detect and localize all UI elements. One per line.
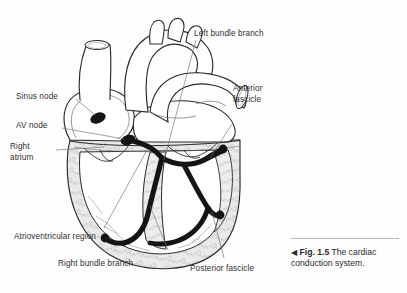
caption-divider <box>291 238 399 239</box>
label-left-bundle-branch: Left bundle branch <box>194 29 264 39</box>
label-av-node: AV node <box>16 121 48 131</box>
svc-lumen-inner <box>88 43 106 49</box>
label-right-atrium-line2: atrium <box>10 153 33 163</box>
posterior-fascicle-terminal <box>216 211 225 220</box>
label-atrioventricular-region: Atrioventricular region <box>14 232 96 242</box>
label-right-atrium-line1: Right <box>10 142 30 152</box>
label-posterior-fascicle: Posterior fascicle <box>190 264 254 274</box>
figure-root: Sinus node AV node Right atrium Atrioven… <box>0 0 407 293</box>
caption-figure-number: Fig. 1.5 <box>300 247 330 257</box>
label-anterior-fascicle-line2: fascicle <box>233 95 261 105</box>
left-atrium <box>133 101 235 142</box>
label-right-bundle-branch: Right bundle branch <box>58 259 133 269</box>
caption-text: ◀ Fig. 1.5 The cardiac conduction system… <box>291 247 403 270</box>
anterior-fascicle-terminal <box>219 145 228 154</box>
label-sinus-node: Sinus node <box>16 92 58 102</box>
label-anterior-fascicle-line1: Anterior <box>233 84 262 94</box>
right-bundle-branch-terminal <box>101 234 110 243</box>
figure-caption: ◀ Fig. 1.5 The cardiac conduction system… <box>291 238 403 270</box>
